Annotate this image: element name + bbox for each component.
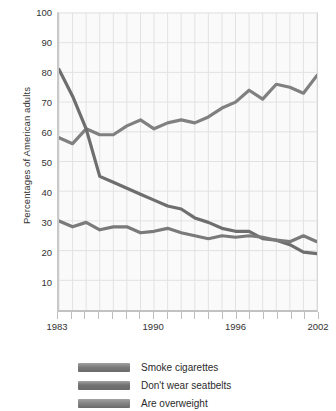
x-tick-mark [304, 312, 305, 319]
legend-label: Smoke cigarettes [141, 362, 218, 373]
x-tick-mark [153, 312, 154, 319]
legend-item: Are overweight [78, 394, 308, 411]
y-axis-tick-labels: 100908070605040302010 [22, 12, 52, 312]
series-line-are-overweight [59, 75, 317, 143]
y-tick-label: 100 [22, 7, 52, 18]
x-tick-label: 2002 [307, 321, 328, 332]
y-tick-label: 60 [22, 127, 52, 138]
x-tick-mark [139, 312, 140, 319]
legend-label: Don't wear seatbelts [141, 380, 231, 391]
legend-item: Don't wear seatbelts [78, 376, 308, 394]
y-tick-label: 30 [22, 217, 52, 228]
y-tick-label: 20 [22, 247, 52, 258]
series-line-smoke-cigarettes [59, 221, 317, 242]
y-tick-label: 80 [22, 67, 52, 78]
x-tick-mark [71, 312, 72, 319]
y-tick-label: 90 [22, 37, 52, 48]
chart-figure: Percentages of American adults 100908070… [0, 0, 336, 411]
y-tick-label: 10 [22, 277, 52, 288]
x-tick-label: 1983 [46, 321, 67, 332]
chart-legend: Smoke cigarettesDon't wear seatbeltsAre … [78, 358, 308, 411]
legend-swatch [78, 363, 130, 372]
x-tick-mark [208, 312, 209, 319]
x-tick-mark [84, 312, 85, 319]
x-tick-label: 1996 [225, 321, 246, 332]
x-tick-mark [181, 312, 182, 319]
x-tick-label: 1990 [143, 321, 164, 332]
plot-area [57, 12, 318, 312]
x-tick-mark [249, 312, 250, 319]
x-tick-mark [318, 312, 319, 319]
legend-swatch [78, 399, 130, 408]
legend-swatch [78, 381, 130, 390]
x-tick-mark [112, 312, 113, 319]
x-tick-mark [167, 312, 168, 319]
y-tick-label: 70 [22, 97, 52, 108]
x-tick-mark [236, 312, 237, 319]
x-tick-mark [98, 312, 99, 319]
x-tick-mark [194, 312, 195, 319]
y-tick-label: 50 [22, 157, 52, 168]
x-tick-mark [263, 312, 264, 319]
x-tick-mark [57, 312, 58, 319]
series-line-dont-wear-seatbelts [59, 69, 317, 253]
series-lines [59, 13, 317, 310]
x-axis-tick-labels: 1983199019962002 [0, 321, 336, 337]
x-tick-mark [291, 312, 292, 319]
x-tick-mark [277, 312, 278, 319]
x-tick-mark [126, 312, 127, 319]
x-axis-tick-marks [57, 312, 318, 319]
y-tick-label: 40 [22, 187, 52, 198]
legend-label: Are overweight [141, 398, 208, 409]
x-tick-mark [222, 312, 223, 319]
legend-item: Smoke cigarettes [78, 358, 308, 376]
